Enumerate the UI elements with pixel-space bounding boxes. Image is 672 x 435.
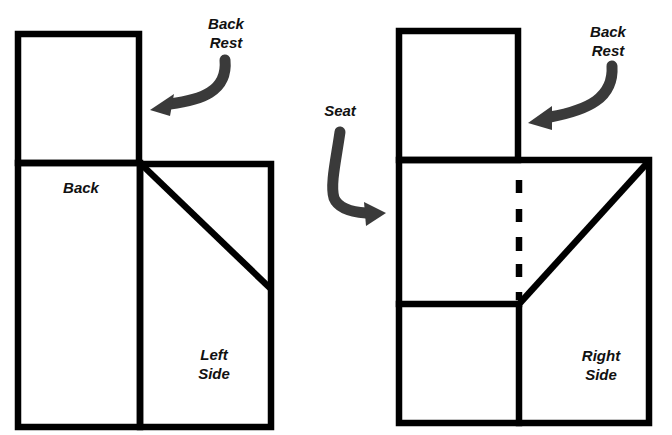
label-line: Back (208, 14, 244, 33)
label-line: Back (590, 22, 626, 41)
label-line: Back (63, 178, 99, 197)
label-left-side: Left Side (198, 345, 230, 383)
label-line: Rest (590, 41, 626, 60)
label-right-back-rest: Back Rest (590, 22, 626, 60)
label-line: Seat (324, 101, 356, 120)
label-line: Rest (208, 33, 244, 52)
label-left-back-rest: Back Rest (208, 14, 244, 52)
label-line: Side (582, 365, 620, 384)
label-line: Left (198, 345, 230, 364)
label-right-side: Right Side (582, 346, 620, 384)
chair-panel-diagram (0, 0, 672, 435)
left-side-panel (140, 164, 271, 427)
seat-arrow-icon (333, 132, 386, 226)
label-left-back: Back (63, 178, 99, 197)
label-line: Side (198, 364, 230, 383)
label-line: Right (582, 346, 620, 365)
right-back-rest-arrow-icon (528, 66, 612, 130)
left-side-diagonal (141, 164, 271, 289)
arrows-group (150, 60, 612, 226)
right-side-diagonal (520, 161, 649, 303)
left-panel-group (18, 34, 271, 427)
label-seat: Seat (324, 101, 356, 120)
left-back-rest-panel (18, 34, 139, 163)
right-back-rest-panel (399, 31, 518, 160)
left-back-panel (18, 163, 140, 427)
left-back-rest-arrow-icon (150, 60, 225, 116)
